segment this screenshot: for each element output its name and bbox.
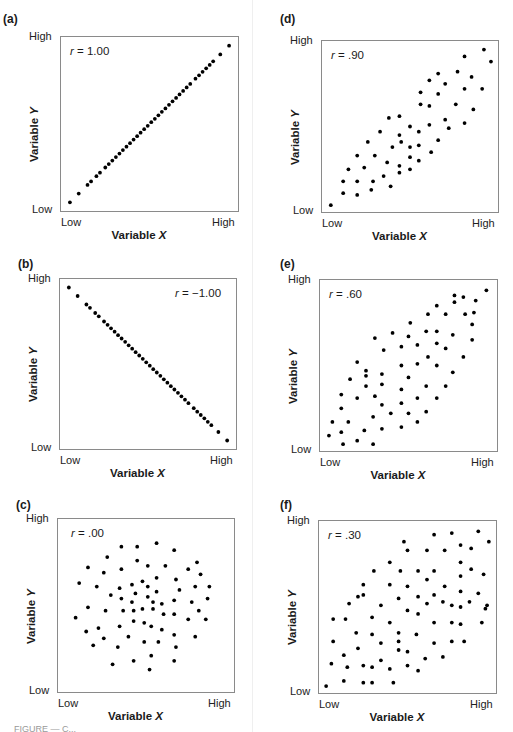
- data-point: [207, 585, 211, 589]
- y-tick-high: High: [29, 30, 52, 42]
- y-axis-label: Variable Y: [25, 589, 37, 644]
- data-point: [109, 326, 113, 330]
- data-point: [487, 540, 491, 544]
- data-point: [389, 411, 393, 415]
- data-point: [98, 171, 102, 175]
- data-point: [195, 410, 199, 414]
- data-point: [471, 108, 475, 112]
- x-axis-label: Variable X: [110, 467, 165, 479]
- data-point: [453, 294, 457, 298]
- data-point: [371, 415, 375, 419]
- data-point: [370, 633, 374, 637]
- plot-area: [318, 520, 497, 694]
- data-point: [454, 102, 458, 106]
- data-point: [181, 89, 185, 93]
- r-value: = .60: [333, 288, 362, 300]
- data-point: [132, 138, 136, 142]
- data-point: [172, 598, 176, 602]
- data-point: [355, 154, 359, 158]
- y-tick-low: Low: [293, 204, 313, 216]
- data-point: [444, 312, 448, 316]
- data-point: [174, 96, 178, 100]
- x-tick-low: Low: [61, 216, 81, 228]
- data-point: [425, 548, 429, 552]
- data-point: [123, 340, 127, 344]
- panel-label: (d): [280, 12, 295, 26]
- data-point: [427, 104, 431, 108]
- data-point: [149, 654, 153, 658]
- data-point: [476, 529, 480, 533]
- data-point: [432, 569, 436, 573]
- data-point: [450, 531, 454, 535]
- y-tick-low: Low: [29, 684, 49, 696]
- data-point: [149, 624, 153, 628]
- data-point: [443, 118, 447, 122]
- data-point: [382, 174, 386, 178]
- data-point: [468, 600, 472, 604]
- data-point: [341, 179, 345, 183]
- y-tick-high: High: [290, 34, 313, 46]
- data-point: [107, 162, 111, 166]
- data-point: [379, 641, 383, 645]
- data-point: [441, 655, 445, 659]
- data-point: [132, 609, 136, 613]
- data-point: [427, 78, 431, 82]
- data-point: [110, 159, 114, 163]
- x-axis-label-variable: X: [417, 711, 425, 723]
- data-point: [469, 547, 473, 551]
- data-point: [91, 643, 95, 647]
- data-point: [86, 605, 90, 609]
- data-point: [459, 560, 463, 564]
- data-point: [173, 388, 177, 392]
- data-point: [344, 617, 348, 621]
- data-point: [427, 123, 431, 127]
- data-point: [77, 192, 81, 196]
- data-point: [400, 401, 404, 405]
- data-point: [148, 364, 152, 368]
- y-axis-label-prefix: Variable: [28, 115, 40, 162]
- data-point: [426, 312, 430, 316]
- data-point: [459, 574, 463, 578]
- data-point: [95, 585, 99, 589]
- y-tick-low: Low: [32, 203, 52, 215]
- data-point: [67, 286, 71, 290]
- data-point: [463, 55, 467, 59]
- data-point: [174, 645, 178, 649]
- correlation-annotation: r = .60: [329, 288, 362, 300]
- data-point: [469, 567, 473, 571]
- data-point: [120, 545, 124, 549]
- data-point: [169, 384, 173, 388]
- data-point: [164, 107, 168, 111]
- data-point: [366, 140, 370, 144]
- data-point: [391, 145, 395, 149]
- data-point: [355, 360, 359, 364]
- data-point: [199, 572, 203, 576]
- data-point: [370, 665, 374, 669]
- x-axis-label-prefix: Variable: [371, 469, 418, 481]
- data-point: [120, 597, 124, 601]
- y-tick-low: Low: [291, 443, 311, 455]
- data-point: [197, 609, 201, 613]
- x-tick-low: Low: [322, 217, 342, 229]
- y-axis-label: Variable Y: [28, 107, 40, 162]
- data-point: [160, 628, 164, 632]
- data-point: [397, 648, 401, 652]
- data-point: [424, 384, 428, 388]
- data-point: [165, 381, 169, 385]
- data-point: [354, 631, 358, 635]
- data-point: [155, 541, 159, 545]
- data-point: [151, 600, 155, 604]
- data-point: [398, 171, 402, 175]
- data-point: [424, 329, 428, 333]
- y-axis-label: Variable Y: [27, 347, 39, 402]
- data-point: [125, 145, 129, 149]
- data-point: [188, 82, 192, 86]
- data-point: [127, 635, 131, 639]
- data-point: [461, 355, 465, 359]
- data-point: [330, 662, 334, 666]
- data-point: [378, 130, 382, 134]
- plot-area: [57, 518, 235, 693]
- data-point: [407, 376, 411, 380]
- data-point: [356, 595, 360, 599]
- data-point: [77, 581, 81, 585]
